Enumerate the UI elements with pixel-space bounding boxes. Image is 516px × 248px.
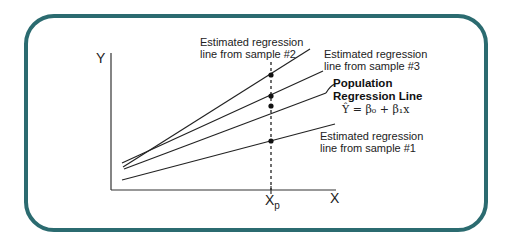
population-point (268, 103, 273, 108)
sample1-label: Estimated regression line from sample #1 (320, 130, 423, 154)
x-axis-label: X (330, 190, 339, 206)
sample2-label: Estimated regression line from sample #2 (200, 36, 303, 60)
xp-label: Xp (265, 192, 280, 211)
population-label-line2: Regression Line (333, 90, 422, 103)
population-regression-line (124, 93, 326, 169)
sample3-label-line1: Estimated regression (324, 48, 427, 60)
sample3-regression-line (122, 71, 323, 163)
sample1-label-line2: line from sample #1 (320, 142, 423, 154)
population-label-line1: Population (333, 77, 422, 90)
sample2-point (268, 72, 273, 77)
regression-equation: Ŷ = β₀ + β₁x (342, 103, 409, 116)
population-label: Population Regression Line (333, 77, 422, 103)
sample3-point (268, 93, 273, 98)
sample3-label: Estimated regression line from sample #3 (324, 48, 427, 72)
sample1-label-line1: Estimated regression (320, 130, 423, 142)
y-axis-label: Y (96, 50, 105, 66)
sample1-regression-line (122, 124, 335, 180)
sample3-label-line2: line from sample #3 (324, 60, 427, 72)
sample1-point (268, 138, 273, 143)
xp-label-base: X (265, 192, 274, 208)
sample2-label-line2: line from sample #2 (200, 48, 303, 60)
xp-label-subscript: p (274, 200, 280, 211)
sample2-label-line1: Estimated regression (200, 36, 303, 48)
